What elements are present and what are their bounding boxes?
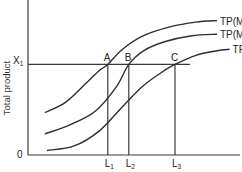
tick-label-l1: L1 xyxy=(105,158,115,170)
origin-label: 0 xyxy=(17,149,23,160)
curve-tpm3 xyxy=(45,21,217,113)
series-label-tpm1: TP(M1) xyxy=(233,44,242,56)
curve-tpm2 xyxy=(45,34,217,134)
y-axis-label: Total product xyxy=(1,60,12,115)
tick-label-l2: L2 xyxy=(126,158,136,170)
x1-level-label: X1 xyxy=(13,55,24,67)
svg-text:X1: X1 xyxy=(13,55,24,67)
isoquant-chart: Total product 0 X1 AL1BL2CL3TP(M3)TP(M2)… xyxy=(0,0,242,172)
series-label-tpm3: TP(M3) xyxy=(220,16,242,28)
tick-label-l3: L3 xyxy=(172,158,182,170)
series-label-tpm2: TP(M2) xyxy=(220,29,242,41)
point-label-c: C xyxy=(171,52,178,63)
